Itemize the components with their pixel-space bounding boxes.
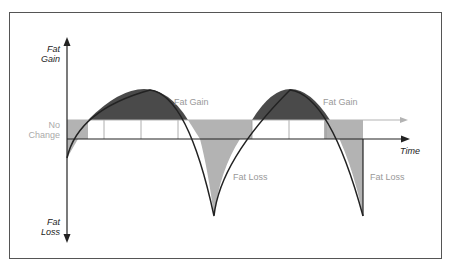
y-label-nochange-line2: Change <box>10 130 60 140</box>
gain-area-2 <box>252 89 330 120</box>
label-fat-loss-1: Fat Loss <box>233 172 268 182</box>
label-fat-gain-1: Fat Gain <box>174 97 209 107</box>
y-label-fat-loss: Fat Loss <box>20 217 60 237</box>
y-label-gain-line1: Fat <box>20 44 60 54</box>
band-white-2 <box>252 120 324 139</box>
label-fat-loss-2: Fat Loss <box>370 172 405 182</box>
y-label-nochange-line1: No <box>10 120 60 130</box>
label-fat-gain-2: Fat Gain <box>323 97 358 107</box>
y-label-fat-gain: Fat Gain <box>20 44 60 64</box>
fat-cycle-diagram <box>0 0 450 271</box>
y-label-loss-line1: Fat <box>20 217 60 227</box>
y-label-no-change: No Change <box>10 120 60 140</box>
y-label-loss-line2: Loss <box>20 227 60 237</box>
y-label-gain-line2: Gain <box>20 54 60 64</box>
x-label-time: Time <box>400 146 420 156</box>
